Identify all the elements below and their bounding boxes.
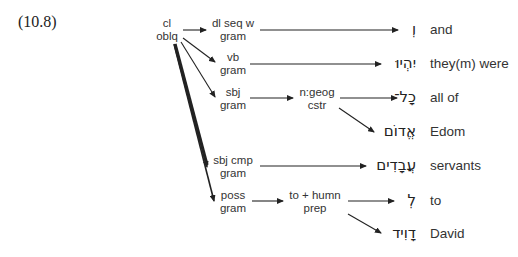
node-label: vb bbox=[220, 51, 246, 64]
example-number: (10.8) bbox=[18, 13, 57, 31]
node-n-geog: n:geog cstr bbox=[299, 86, 334, 112]
syntax-tree-diagram: (10.8) cl oblq dl seq w gram vb gram sbj… bbox=[0, 0, 518, 257]
hebrew-word: וְ bbox=[412, 20, 416, 38]
edge-root-vb bbox=[183, 38, 215, 62]
node-label: dl seq w bbox=[212, 17, 254, 30]
node-label: gram bbox=[212, 30, 254, 43]
gloss: servants bbox=[430, 158, 481, 173]
hebrew-word: דָוִיד bbox=[392, 224, 416, 242]
node-cl-oblq: cl oblq bbox=[156, 17, 178, 43]
hebrew-word: יִהְיוּ bbox=[395, 54, 416, 72]
hebrew-word: לְ bbox=[407, 191, 416, 209]
node-dl-seq: dl seq w gram bbox=[212, 17, 254, 43]
gloss: they(m) were bbox=[430, 56, 509, 71]
gloss: to bbox=[430, 193, 441, 208]
node-label: gram bbox=[213, 167, 253, 180]
node-label: prep bbox=[289, 202, 340, 215]
gloss: David bbox=[430, 226, 465, 241]
node-label: sbj cmp bbox=[213, 154, 253, 167]
node-label: gram bbox=[220, 202, 246, 215]
node-to-humn: to + humn prep bbox=[289, 189, 340, 215]
hebrew-word: אֱדוֹם bbox=[384, 122, 416, 140]
node-sbj-cmp: sbj cmp gram bbox=[213, 154, 253, 180]
node-label: gram bbox=[220, 99, 246, 112]
edge-ngeog-edom bbox=[339, 108, 374, 132]
node-label: sbj bbox=[220, 86, 246, 99]
node-sbj: sbj gram bbox=[220, 86, 246, 112]
gloss: Edom bbox=[430, 124, 465, 139]
node-label: gram bbox=[220, 64, 246, 77]
edge-root-poss bbox=[174, 44, 214, 201]
node-poss: poss gram bbox=[220, 189, 246, 215]
hebrew-word: עֲבָדִים bbox=[376, 156, 416, 174]
edge-tohumn-david bbox=[348, 214, 381, 233]
node-label: to + humn bbox=[289, 189, 340, 202]
edge-root-sbjcmp bbox=[175, 44, 207, 165]
node-label: poss bbox=[220, 189, 246, 202]
node-label: n:geog bbox=[299, 86, 334, 99]
node-label: cstr bbox=[299, 99, 334, 112]
hebrew-word: כָל־ bbox=[394, 88, 416, 106]
node-label: oblq bbox=[156, 30, 178, 43]
gloss: and bbox=[430, 22, 453, 37]
node-vb: vb gram bbox=[220, 51, 246, 77]
gloss: all of bbox=[430, 90, 459, 105]
node-label: cl bbox=[156, 17, 178, 30]
